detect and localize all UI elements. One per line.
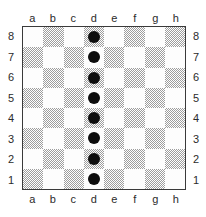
square-c5[interactable] — [64, 88, 84, 108]
square-e4[interactable] — [104, 108, 124, 128]
file-label-h-bottom: h — [166, 191, 187, 207]
square-d7[interactable] — [84, 47, 104, 67]
rank-label-6-right: 6 — [187, 67, 205, 88]
square-e8[interactable] — [104, 27, 124, 47]
square-d6[interactable] — [84, 68, 104, 88]
square-a8[interactable] — [23, 27, 43, 47]
piece-black-d7[interactable] — [88, 51, 100, 63]
piece-black-d6[interactable] — [88, 72, 100, 84]
square-f4[interactable] — [124, 108, 144, 128]
rank-labels-right: 87654321 — [187, 26, 205, 190]
square-d3[interactable] — [84, 128, 104, 148]
square-d8[interactable] — [84, 27, 104, 47]
square-h6[interactable] — [165, 68, 185, 88]
file-label-f-bottom: f — [125, 191, 146, 207]
rank-label-5-left: 5 — [2, 88, 20, 109]
square-a6[interactable] — [23, 68, 43, 88]
file-label-c-top: c — [63, 10, 84, 26]
square-a2[interactable] — [23, 149, 43, 169]
rank-label-8-left: 8 — [2, 26, 20, 47]
board-grid — [23, 27, 185, 189]
square-g6[interactable] — [145, 68, 165, 88]
file-label-a-bottom: a — [22, 191, 43, 207]
square-b2[interactable] — [43, 149, 63, 169]
square-b8[interactable] — [43, 27, 63, 47]
rank-label-1-left: 1 — [2, 170, 20, 191]
square-g2[interactable] — [145, 149, 165, 169]
square-h8[interactable] — [165, 27, 185, 47]
piece-black-d2[interactable] — [88, 153, 100, 165]
rank-labels-left: 87654321 — [2, 26, 20, 190]
square-f7[interactable] — [124, 47, 144, 67]
square-c8[interactable] — [64, 27, 84, 47]
square-e5[interactable] — [104, 88, 124, 108]
square-a1[interactable] — [23, 169, 43, 189]
file-labels-bottom: abcdefgh — [22, 191, 186, 207]
file-label-b-top: b — [43, 10, 64, 26]
file-label-e-bottom: e — [104, 191, 125, 207]
square-d1[interactable] — [84, 169, 104, 189]
square-b1[interactable] — [43, 169, 63, 189]
square-c7[interactable] — [64, 47, 84, 67]
rank-label-4-right: 4 — [187, 108, 205, 129]
square-c2[interactable] — [64, 149, 84, 169]
square-h5[interactable] — [165, 88, 185, 108]
square-g5[interactable] — [145, 88, 165, 108]
square-h1[interactable] — [165, 169, 185, 189]
chess-board[interactable] — [22, 26, 186, 190]
square-a5[interactable] — [23, 88, 43, 108]
square-d4[interactable] — [84, 108, 104, 128]
square-h7[interactable] — [165, 47, 185, 67]
piece-black-d8[interactable] — [88, 31, 100, 43]
piece-black-d1[interactable] — [88, 173, 100, 185]
square-e6[interactable] — [104, 68, 124, 88]
square-c6[interactable] — [64, 68, 84, 88]
piece-black-d3[interactable] — [88, 132, 100, 144]
square-c1[interactable] — [64, 169, 84, 189]
square-d2[interactable] — [84, 149, 104, 169]
square-g1[interactable] — [145, 169, 165, 189]
square-b7[interactable] — [43, 47, 63, 67]
square-d5[interactable] — [84, 88, 104, 108]
square-b3[interactable] — [43, 128, 63, 148]
square-f6[interactable] — [124, 68, 144, 88]
file-label-d-bottom: d — [84, 191, 105, 207]
square-c3[interactable] — [64, 128, 84, 148]
file-labels-top: abcdefgh — [22, 10, 186, 26]
file-label-c-bottom: c — [63, 191, 84, 207]
square-b4[interactable] — [43, 108, 63, 128]
square-g3[interactable] — [145, 128, 165, 148]
square-c4[interactable] — [64, 108, 84, 128]
square-e3[interactable] — [104, 128, 124, 148]
square-f8[interactable] — [124, 27, 144, 47]
square-a4[interactable] — [23, 108, 43, 128]
rank-label-1-right: 1 — [187, 170, 205, 191]
square-f5[interactable] — [124, 88, 144, 108]
square-h3[interactable] — [165, 128, 185, 148]
piece-black-d4[interactable] — [88, 112, 100, 124]
square-e7[interactable] — [104, 47, 124, 67]
square-b5[interactable] — [43, 88, 63, 108]
square-e2[interactable] — [104, 149, 124, 169]
square-g7[interactable] — [145, 47, 165, 67]
rank-label-7-right: 7 — [187, 47, 205, 68]
square-f1[interactable] — [124, 169, 144, 189]
file-label-g-bottom: g — [145, 191, 166, 207]
rank-label-3-left: 3 — [2, 129, 20, 150]
square-f3[interactable] — [124, 128, 144, 148]
square-f2[interactable] — [124, 149, 144, 169]
square-g4[interactable] — [145, 108, 165, 128]
square-e1[interactable] — [104, 169, 124, 189]
rank-label-6-left: 6 — [2, 67, 20, 88]
square-h2[interactable] — [165, 149, 185, 169]
square-a3[interactable] — [23, 128, 43, 148]
rank-label-8-right: 8 — [187, 26, 205, 47]
square-a7[interactable] — [23, 47, 43, 67]
square-h4[interactable] — [165, 108, 185, 128]
piece-black-d5[interactable] — [88, 92, 100, 104]
square-b6[interactable] — [43, 68, 63, 88]
file-label-a-top: a — [22, 10, 43, 26]
square-g8[interactable] — [145, 27, 165, 47]
rank-label-5-right: 5 — [187, 88, 205, 109]
rank-label-2-left: 2 — [2, 149, 20, 170]
